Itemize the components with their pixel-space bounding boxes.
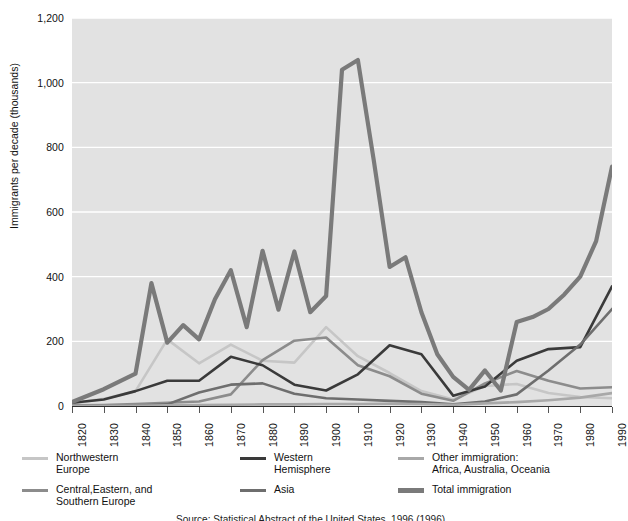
legend-item-label: Central,Eastern, and Southern Europe — [56, 484, 152, 507]
y-tick-label: 800 — [18, 142, 64, 152]
x-tick-mark — [104, 407, 105, 413]
x-tick-label: 1960 — [521, 423, 533, 447]
legend-color-swatch — [240, 457, 266, 460]
legend-item: Other immigration: Africa, Australia, Oc… — [398, 452, 624, 475]
x-tick-label: 1910 — [362, 423, 374, 447]
x-tick-label: 1830 — [108, 423, 120, 447]
x-tick-label: 1840 — [140, 423, 152, 447]
x-tick-label: 1950 — [489, 423, 501, 447]
legend-column-3: Other immigration: Africa, Australia, Oc… — [398, 452, 624, 505]
x-tick-mark — [421, 407, 422, 413]
series-line — [72, 337, 612, 405]
legend-item: Central,Eastern, and Southern Europe — [22, 484, 212, 507]
x-tick-label: 1860 — [203, 423, 215, 447]
legend-item: Northwestern Europe — [22, 452, 212, 475]
legend-color-swatch — [22, 489, 48, 492]
series-lines — [72, 60, 612, 406]
legend-item: Total immigration — [398, 484, 624, 496]
legend-item: Asia — [240, 484, 400, 496]
x-tick-mark — [390, 407, 391, 413]
x-tick-label: 1820 — [76, 423, 88, 447]
x-tick-label: 1940 — [457, 423, 469, 447]
x-tick-mark — [231, 407, 232, 413]
x-tick-label: 1880 — [267, 423, 279, 447]
legend-item-label: Total immigration — [432, 484, 511, 496]
x-tick-mark — [358, 407, 359, 413]
x-tick-mark — [485, 407, 486, 413]
x-tick-mark — [517, 407, 518, 413]
legend-color-swatch — [22, 457, 48, 460]
plot-svg — [72, 18, 612, 406]
source-caption: Source: Statistical Abstract of the Unit… — [176, 514, 616, 521]
x-tick-label: 1970 — [552, 423, 564, 447]
x-tick-label: 1920 — [394, 423, 406, 447]
x-tick-label: 1990 — [616, 423, 628, 447]
legend-item-label: Other immigration: Africa, Australia, Oc… — [432, 452, 550, 475]
plot-area — [72, 18, 612, 406]
y-tick-label: 200 — [18, 336, 64, 346]
legend-column-2: Western HemisphereAsia — [240, 452, 400, 505]
legend-color-swatch — [398, 488, 424, 493]
series-line — [72, 309, 612, 406]
x-tick-mark — [263, 407, 264, 413]
y-tick-label: 400 — [18, 272, 64, 282]
y-tick-label: 0 — [18, 401, 64, 411]
legend-item-label: Western Hemisphere — [274, 452, 331, 475]
x-tick-mark — [199, 407, 200, 413]
legend-color-swatch — [398, 457, 424, 460]
x-tick-mark — [136, 407, 137, 413]
legend-item-label: Asia — [274, 484, 294, 496]
legend-column-1: Northwestern EuropeCentral,Eastern, and … — [22, 452, 212, 516]
x-tick-label: 1890 — [298, 423, 310, 447]
series-line — [72, 286, 612, 402]
x-tick-mark — [167, 407, 168, 413]
y-tick-label: 1,200 — [18, 13, 64, 23]
x-tick-mark — [72, 407, 73, 413]
x-tick-label: 1930 — [425, 423, 437, 447]
y-tick-label: 1,000 — [18, 78, 64, 88]
x-tick-mark — [612, 407, 613, 413]
x-tick-mark — [453, 407, 454, 413]
y-tick-label: 600 — [18, 207, 64, 217]
x-tick-label: 1900 — [330, 423, 342, 447]
x-tick-label: 1850 — [171, 423, 183, 447]
x-tick-mark — [294, 407, 295, 413]
x-axis-line — [72, 406, 612, 407]
x-tick-mark — [548, 407, 549, 413]
legend-item-label: Northwestern Europe — [56, 452, 118, 475]
legend-item: Western Hemisphere — [240, 452, 400, 475]
x-tick-label: 1980 — [584, 423, 596, 447]
x-tick-label: 1870 — [235, 423, 247, 447]
x-tick-mark — [580, 407, 581, 413]
x-tick-mark — [326, 407, 327, 413]
legend-color-swatch — [240, 489, 266, 492]
chart-legend: Northwestern EuropeCentral,Eastern, and … — [0, 452, 624, 514]
series-line — [72, 327, 612, 403]
